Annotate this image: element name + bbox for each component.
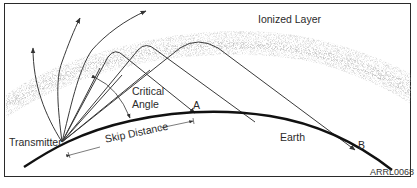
angle-label: Angle (132, 99, 159, 110)
propagation-diagram (0, 0, 417, 188)
transmitter-label: Transmitter (9, 137, 62, 148)
critical-label: Critical (132, 86, 164, 97)
earth-label: Earth (280, 132, 305, 143)
ionized-layer-label: Ionized Layer (258, 14, 321, 25)
figure-code: ARRL0068 (370, 168, 414, 177)
point-a-label: A (193, 100, 200, 111)
point-b-label: B (358, 140, 365, 151)
